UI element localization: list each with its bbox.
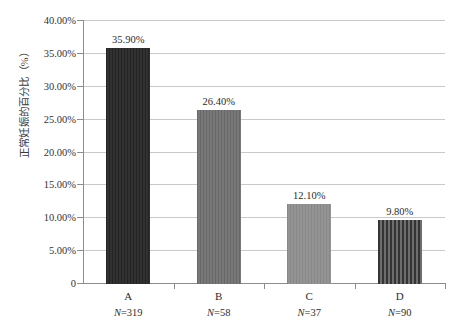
- y-axis-tick-labels: 40.00%35.00%30.00%25.00%20.00%15.00%10.0…: [22, 0, 76, 333]
- x-axis-sample-size-label: N=319: [83, 305, 174, 321]
- bar[interactable]: 9.80%: [378, 220, 422, 284]
- y-axis-tick-label: 20.00%: [22, 146, 76, 157]
- y-axis-tick-mark: [77, 217, 83, 218]
- x-axis-category-B: BN=58: [174, 288, 265, 321]
- bar-slot: 9.80%: [355, 20, 446, 284]
- x-axis-sample-size-label: N=90: [355, 305, 446, 321]
- y-axis-tick-mark: [77, 184, 83, 185]
- bar[interactable]: 12.10%: [287, 204, 331, 284]
- bar-value-label: 26.40%: [203, 96, 235, 107]
- n-symbol: N: [298, 307, 305, 318]
- y-axis-tick-label: 15.00%: [22, 179, 76, 190]
- n-symbol: N: [388, 307, 395, 318]
- y-axis-tick-mark: [77, 250, 83, 251]
- x-axis-labels: AN=319BN=58CN=37DN=90: [83, 288, 446, 333]
- x-axis-tick-mark: [174, 284, 175, 289]
- x-axis-category-label: A: [83, 288, 174, 304]
- x-axis-category-A: AN=319: [83, 288, 174, 321]
- y-axis-tick-mark: [77, 20, 83, 21]
- bar-slot: 12.10%: [264, 20, 355, 284]
- y-axis-tick-mark: [77, 53, 83, 54]
- x-axis-sample-size-label: N=58: [174, 305, 265, 321]
- y-axis-tick-label: 0: [22, 278, 76, 289]
- bar-value-label: 9.80%: [386, 206, 413, 217]
- y-axis-tick-mark: [77, 283, 83, 284]
- bar-chart: 正常妊娠的百分比（%） 40.00%35.00%30.00%25.00%20.0…: [0, 0, 460, 333]
- y-axis-tick-label: 10.00%: [22, 212, 76, 223]
- x-axis-tick-mark: [355, 284, 356, 289]
- bar-slot: 26.40%: [174, 20, 265, 284]
- bar-slot: 35.90%: [83, 20, 174, 284]
- y-axis-tick-label: 35.00%: [22, 47, 76, 58]
- x-axis-sample-size-label: N=37: [264, 305, 355, 321]
- n-symbol: N: [207, 307, 214, 318]
- x-axis-category-label: C: [264, 288, 355, 304]
- bar[interactable]: 26.40%: [197, 110, 241, 284]
- x-axis-tick-mark: [445, 284, 446, 289]
- y-axis-tick-mark: [77, 86, 83, 87]
- x-axis-category-label: B: [174, 288, 265, 304]
- n-symbol: N: [114, 307, 121, 318]
- y-axis-tick-mark: [77, 152, 83, 153]
- y-axis-tick-label: 30.00%: [22, 80, 76, 91]
- bar-value-label: 12.10%: [293, 190, 325, 201]
- y-axis-tick-mark: [77, 119, 83, 120]
- y-axis-tick-label: 25.00%: [22, 113, 76, 124]
- x-axis-category-C: CN=37: [264, 288, 355, 321]
- bar-value-label: 35.90%: [112, 34, 144, 45]
- x-axis-tick-mark: [264, 284, 265, 289]
- bar[interactable]: 35.90%: [106, 48, 150, 284]
- y-axis-tick-label: 5.00%: [22, 245, 76, 256]
- bars-layer: 35.90%26.40%12.10%9.80%: [83, 20, 446, 284]
- x-axis-category-label: D: [355, 288, 446, 304]
- y-axis-tick-label: 40.00%: [22, 15, 76, 26]
- x-axis-category-D: DN=90: [355, 288, 446, 321]
